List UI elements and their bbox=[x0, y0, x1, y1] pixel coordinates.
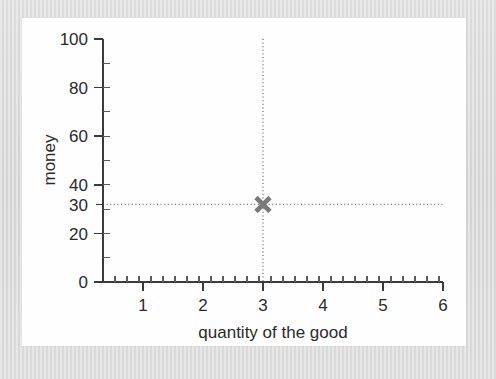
y-tick-label-20: 20 bbox=[69, 225, 88, 244]
y-tick-label-60: 60 bbox=[69, 127, 88, 146]
y-axis-title: money bbox=[40, 134, 59, 186]
plot-background bbox=[22, 18, 466, 346]
x-tick-label-1: 1 bbox=[138, 296, 147, 315]
x-tick-label-2: 2 bbox=[198, 296, 207, 315]
y-tick-label-0: 0 bbox=[79, 273, 88, 292]
y-tick-label-40: 40 bbox=[69, 176, 88, 195]
figure-card: 100 80 60 40 30 20 0 1 2 3 4 5 6 money q… bbox=[22, 18, 466, 346]
y-tick-label-80: 80 bbox=[69, 79, 88, 98]
x-tick-label-4: 4 bbox=[318, 296, 327, 315]
x-tick-label-3: 3 bbox=[258, 296, 267, 315]
x-axis-title: quantity of the good bbox=[198, 323, 347, 342]
chart-svg: 100 80 60 40 30 20 0 1 2 3 4 5 6 money q… bbox=[22, 18, 466, 346]
scanned-page-background: 100 80 60 40 30 20 0 1 2 3 4 5 6 money q… bbox=[0, 0, 496, 379]
y-tick-label-100: 100 bbox=[60, 30, 88, 49]
x-tick-label-6: 6 bbox=[438, 296, 447, 315]
y-tick-label-30: 30 bbox=[69, 196, 88, 215]
chart-figure: 100 80 60 40 30 20 0 1 2 3 4 5 6 money q… bbox=[22, 18, 466, 346]
x-tick-label-5: 5 bbox=[378, 296, 387, 315]
